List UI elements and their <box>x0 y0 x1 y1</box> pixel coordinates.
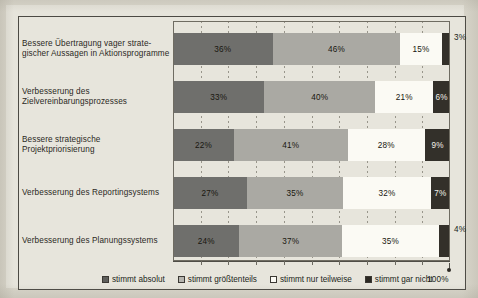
bar-value-label: 41% <box>282 141 299 150</box>
bar-segment: 41% <box>234 129 348 161</box>
bar-row: 22%41%28%9% <box>173 129 450 161</box>
axis-tick-20 <box>228 261 229 265</box>
category-label-line: Bessere strategische <box>22 135 172 146</box>
legend-label: stimmt absolut <box>112 275 165 284</box>
bar-segment: 27% <box>173 177 247 209</box>
bar-segment: 9% <box>425 129 450 161</box>
bar-segment: 7% <box>431 177 450 209</box>
bar-row: 36%46%15%3% <box>173 33 450 65</box>
bar-segment: 15% <box>400 33 442 65</box>
bar-value-label: 27% <box>202 189 219 198</box>
legend-label: stimmt größtenteils <box>188 275 257 284</box>
legend-swatch-icon <box>270 276 277 283</box>
bar-value-label: 32% <box>378 189 395 198</box>
bar-segment: 37% <box>239 225 341 257</box>
bar-value-label: 40% <box>311 93 328 102</box>
bar-segment: 28% <box>348 129 426 161</box>
bar-segment: 3% <box>442 33 450 65</box>
axis-tick-90 <box>422 261 423 265</box>
category-label-line: Verbesserung des <box>22 87 172 98</box>
category-label-line: Verbesserung des Planungssystems <box>22 236 172 247</box>
axis-tick-40 <box>284 261 285 265</box>
bar-segment: 6% <box>433 81 450 113</box>
bar-value-label: 46% <box>328 45 345 54</box>
bar-segment: 21% <box>375 81 433 113</box>
bar-segment: 32% <box>343 177 431 209</box>
bar-segment: 36% <box>173 33 273 65</box>
axis-tick-50 <box>312 261 313 265</box>
category-label-line: gischer Aussagen in Aktionsprogramme <box>22 49 172 60</box>
bar-value-label: 21% <box>396 93 413 102</box>
axis-tick-10 <box>201 261 202 265</box>
bar-value-label: 9% <box>431 141 443 150</box>
legend-swatch-icon <box>178 276 185 283</box>
category-label: Bessere strategischeProjektpriorisierung <box>22 135 172 156</box>
category-label-line: Zielvereinbarungsprozesses <box>22 97 172 108</box>
legend-item[interactable]: stimmt nur teilweise <box>270 275 352 284</box>
bar-value-label: 22% <box>195 141 212 150</box>
bar-row: 27%35%32%7% <box>173 177 450 209</box>
paper-sheet: Bessere Übertragung vager strate-gischer… <box>6 5 464 288</box>
axis-tick-80 <box>395 261 396 265</box>
bar-value-label: 36% <box>214 45 231 54</box>
legend-label: stimmt gar nicht <box>375 275 433 284</box>
category-label: Bessere Übertragung vager strate-gischer… <box>22 39 172 60</box>
chart-legend: stimmt absolutstimmt größtenteilsstimmt … <box>102 275 433 284</box>
bar-value-label: 6% <box>436 93 448 102</box>
legend-label: stimmt nur teilweise <box>280 275 352 284</box>
legend-item[interactable]: stimmt absolut <box>102 275 165 284</box>
category-label: Verbesserung des Reportingsystems <box>22 188 172 199</box>
axis-end-marker <box>447 268 451 272</box>
axis-end-label: 100% <box>427 275 449 284</box>
bar-segment: 40% <box>264 81 375 113</box>
legend-item[interactable]: stimmt gar nicht <box>365 275 433 284</box>
bar-segment: 35% <box>247 177 343 209</box>
bar-value-label: 4% <box>454 225 466 234</box>
category-label: Verbesserung des Planungssystems <box>22 236 172 247</box>
bar-value-label: 37% <box>282 237 299 246</box>
bar-segment: 46% <box>273 33 400 65</box>
bar-segment: 22% <box>173 129 234 161</box>
bar-segment: 4% <box>439 225 450 257</box>
bar-value-label: 24% <box>198 237 215 246</box>
bar-value-label: 3% <box>454 33 466 42</box>
bar-value-label: 35% <box>287 189 304 198</box>
bar-segment: 35% <box>342 225 439 257</box>
bar-value-label: 15% <box>412 45 429 54</box>
category-label: Verbesserung desZielvereinbarungsprozess… <box>22 87 172 108</box>
bar-value-label: 28% <box>378 141 395 150</box>
axis-tick-60 <box>339 261 340 265</box>
axis-tick-30 <box>256 261 257 265</box>
bar-row: 33%40%21%6% <box>173 81 450 113</box>
bar-value-label: 33% <box>210 93 227 102</box>
legend-item[interactable]: stimmt größtenteils <box>178 275 257 284</box>
bar-value-label: 7% <box>434 189 446 198</box>
bar-segment: 24% <box>173 225 239 257</box>
scanned-page: Bessere Übertragung vager strate-gischer… <box>0 0 478 298</box>
axis-tick-70 <box>367 261 368 265</box>
legend-swatch-icon <box>102 276 109 283</box>
bar-segment: 33% <box>173 81 264 113</box>
bar-value-label: 35% <box>382 237 399 246</box>
bar-row: 24%37%35%4% <box>173 225 450 257</box>
category-label-line: Verbesserung des Reportingsystems <box>22 188 172 199</box>
category-label-line: Bessere Übertragung vager strate- <box>22 39 172 50</box>
legend-swatch-icon <box>365 276 372 283</box>
category-label-line: Projektpriorisierung <box>22 145 172 156</box>
plot-area: 36%46%15%3%33%40%21%6%22%41%28%9%27%35%3… <box>173 21 450 261</box>
